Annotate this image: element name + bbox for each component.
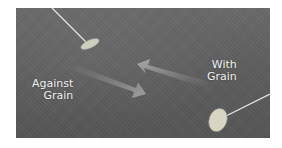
club-shaft [52,8,86,42]
against-grain-arrow [69,63,146,98]
with-grain-label: With Grain [207,59,237,83]
grain-text: Grain [207,71,237,83]
putting-green-photo: Against Grain With Grain [16,8,270,138]
putter-shaft [226,94,270,116]
with-grain-arrow [137,59,210,88]
putter-head-icon [205,106,230,135]
grain-text: Grain [32,90,73,102]
against-grain-label: Against Grain [32,78,73,102]
